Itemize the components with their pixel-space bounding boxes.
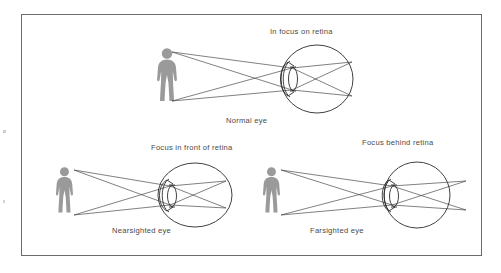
figure-border [22,15,482,256]
label-normal-eye: Normal eye [226,117,267,125]
label-in-focus-on-retina: In focus on retina [270,28,333,36]
panel-normal [157,45,353,113]
label-nearsighted-eye: Nearsighted eye [112,227,171,235]
panel-farsighted [263,162,466,228]
light-rays-nearsighted [74,170,226,215]
panel-nearsighted [56,163,232,227]
person-silhouette-nearsighted [56,167,73,212]
scan-artifact-speck [3,200,5,203]
figure-canvas [0,0,501,273]
light-rays-farsighted [281,170,466,215]
person-silhouette-farsighted [263,167,280,212]
eye-normal [281,45,354,113]
person-silhouette-normal [157,48,177,101]
label-farsighted-eye: Farsighted eye [310,227,364,235]
eye-farsighted [382,162,450,228]
label-focus-behind-retina: Focus behind retina [362,139,433,147]
light-rays-normal [172,52,352,101]
scan-artifact-speck [3,130,6,133]
eye-focus-figure: In focus on retina Normal eye Focus in f… [0,0,501,273]
eye-nearsighted [158,163,232,227]
label-focus-in-front-of-retina: Focus in front of retina [151,144,233,152]
